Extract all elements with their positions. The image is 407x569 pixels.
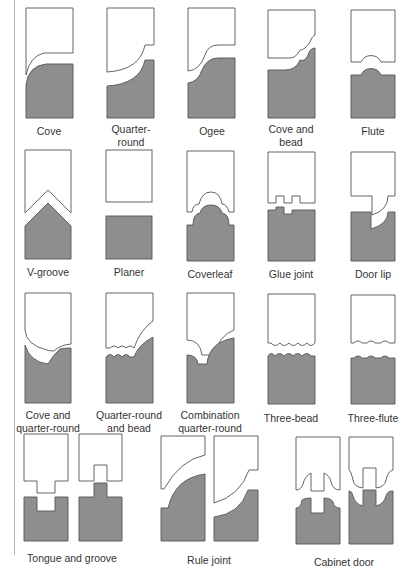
glue-joint-profile <box>268 152 315 261</box>
label-three-flute: Three-flute <box>348 412 399 425</box>
label-three-bead: Three-bead <box>264 412 318 425</box>
label-door-lip: Door lip <box>355 268 391 281</box>
cove-profile <box>26 8 73 118</box>
three-bead-profile <box>268 294 315 404</box>
cabinet-door-profile <box>296 437 393 544</box>
rule-joint-profile <box>161 436 258 541</box>
ogee-profile <box>188 8 235 118</box>
coverleaf-profile <box>187 151 234 261</box>
label-cove: Cove <box>37 125 62 138</box>
label-quarter-round-and-bead: Quarter-round and bead <box>96 409 162 435</box>
label-rule-joint: Rule joint <box>187 554 231 567</box>
quarter-round-profile <box>107 8 154 118</box>
label-quarter-round: Quarter- round <box>111 123 150 149</box>
combination-quarter-round-profile <box>187 293 234 403</box>
label-ogee: Ogee <box>199 125 225 138</box>
label-tongue-and-groove: Tongue and groove <box>27 552 117 565</box>
door-lip-profile <box>351 152 395 261</box>
tongue-and-groove-profile <box>24 434 122 541</box>
three-flute-profile <box>351 295 395 404</box>
label-flute: Flute <box>361 125 384 138</box>
label-v-groove: V-groove <box>27 266 69 279</box>
label-glue-joint: Glue joint <box>269 268 313 281</box>
label-cove-and-quarter-round: Cove and quarter-round <box>16 409 80 435</box>
cove-and-bead-profile <box>268 10 315 118</box>
v-groove-profile <box>25 150 71 259</box>
label-planer: Planer <box>114 266 144 279</box>
label-coverleaf: Coverleaf <box>188 268 233 281</box>
flute-profile <box>351 10 395 118</box>
label-cove-and-bead: Cove and bead <box>269 123 314 149</box>
quarter-round-and-bead-profile <box>106 293 153 403</box>
label-cabinet-door: Cabinet door <box>314 556 374 569</box>
cove-and-quarter-round-profile <box>25 293 71 403</box>
label-combination-quarter-round: Combination quarter-round <box>178 409 242 435</box>
planer-profile <box>106 150 152 259</box>
